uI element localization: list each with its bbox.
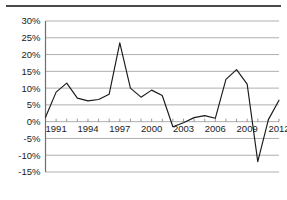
y-tick-label: -10% bbox=[18, 150, 41, 161]
x-tick-label: 1994 bbox=[77, 123, 98, 134]
chart-figure: 30%25%20%15%10%5%0%-5%-10%-15% 199119941… bbox=[0, 0, 287, 200]
y-tick-label: 20% bbox=[21, 49, 41, 60]
y-axis-tick-labels: 30%25%20%15%10%5%0%-5%-10%-15% bbox=[18, 15, 41, 177]
x-tick-label: 2009 bbox=[237, 123, 258, 134]
x-tick-label: 2000 bbox=[141, 123, 162, 134]
y-tick-label: -5% bbox=[24, 133, 41, 144]
x-axis-tick-labels: 19911994199720002003200620092012 bbox=[46, 123, 287, 134]
data-series-line bbox=[46, 43, 280, 162]
x-tick-label: 1997 bbox=[109, 123, 130, 134]
y-tick-label: 25% bbox=[21, 32, 41, 43]
x-tick-label: 1991 bbox=[46, 123, 67, 134]
x-tick-label: 2012 bbox=[268, 123, 287, 134]
line-chart: 30%25%20%15%10%5%0%-5%-10%-15% 199119941… bbox=[0, 0, 287, 200]
x-tick-label: 2003 bbox=[173, 123, 194, 134]
x-tick-mark-group bbox=[46, 119, 280, 122]
y-tick-label: 0% bbox=[27, 116, 41, 127]
y-tick-label: 30% bbox=[21, 15, 41, 26]
y-tick-label: 10% bbox=[21, 83, 41, 94]
x-tick-label: 2006 bbox=[205, 123, 226, 134]
y-tick-label: 5% bbox=[27, 99, 41, 110]
y-tick-label: -15% bbox=[18, 166, 41, 177]
y-tick-label: 15% bbox=[21, 66, 41, 77]
